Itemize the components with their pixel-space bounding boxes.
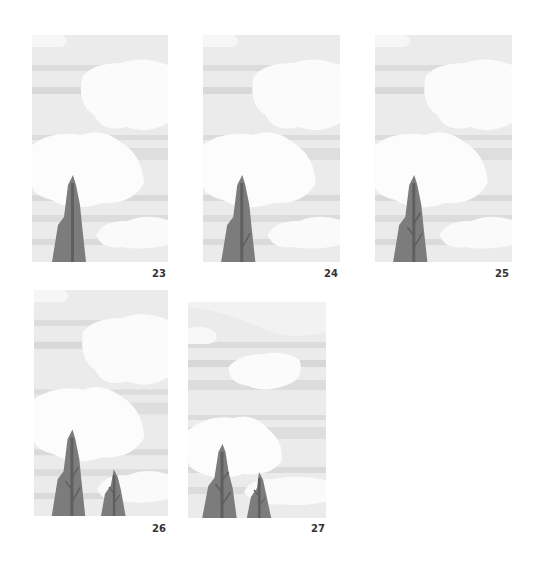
frame-24 bbox=[203, 35, 340, 262]
frame-23-illustration bbox=[32, 35, 168, 262]
frame-26 bbox=[34, 290, 168, 516]
frame-label-23: 23 bbox=[152, 268, 166, 279]
frame-26-illustration bbox=[34, 290, 168, 516]
frame-label-24: 24 bbox=[324, 268, 338, 279]
frame-label-27: 27 bbox=[311, 523, 325, 534]
frame-25 bbox=[375, 35, 512, 262]
frame-label-25: 25 bbox=[495, 268, 509, 279]
frame-23 bbox=[32, 35, 168, 262]
frame-24-illustration bbox=[203, 35, 340, 262]
frame-27-illustration bbox=[188, 302, 326, 518]
frame-label-26: 26 bbox=[152, 523, 166, 534]
frame-25-illustration bbox=[375, 35, 512, 262]
frame-27 bbox=[188, 302, 326, 518]
